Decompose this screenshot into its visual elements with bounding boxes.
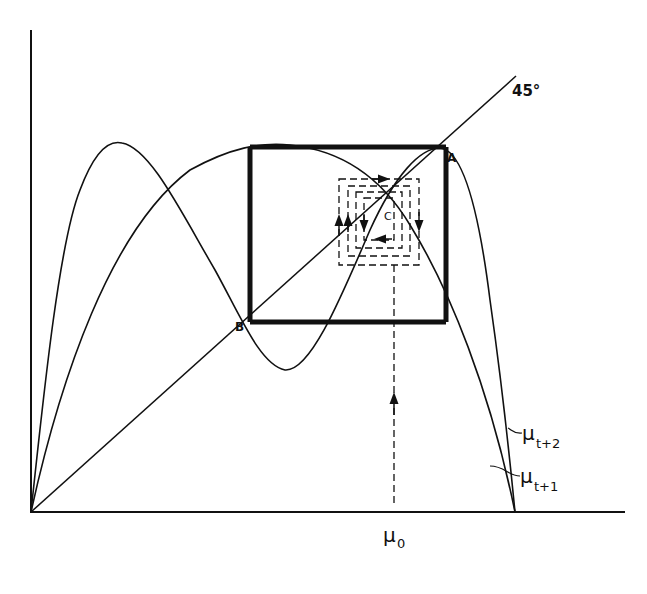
leader-mu-t-plus-2 xyxy=(508,428,522,433)
svg-text:0: 0 xyxy=(397,536,405,551)
point-c-label: C xyxy=(384,210,392,223)
diagonal-label: 45° xyxy=(512,82,540,100)
cobweb-diagram: 45° A B C μ t+2 μ t+1 μ 0 xyxy=(0,0,647,594)
label-mu-0: μ 0 xyxy=(383,523,405,551)
svg-text:t+1: t+1 xyxy=(534,479,558,494)
svg-text:μ: μ xyxy=(520,464,533,488)
diagonal-45-line xyxy=(31,76,516,512)
curve-mu-t-plus-1 xyxy=(31,144,515,512)
svg-text:μ: μ xyxy=(383,523,396,547)
flow-arrows xyxy=(339,179,419,415)
curve-mu-t-plus-2 xyxy=(31,143,515,512)
point-a-label: A xyxy=(447,151,457,165)
svg-text:t+2: t+2 xyxy=(536,436,560,451)
label-mu-t-plus-2: μ t+2 xyxy=(522,421,560,451)
svg-text:μ: μ xyxy=(522,421,535,445)
point-b-label: B xyxy=(235,320,244,334)
label-mu-t-plus-1: μ t+1 xyxy=(520,464,558,494)
cobweb-spiral xyxy=(339,179,419,505)
